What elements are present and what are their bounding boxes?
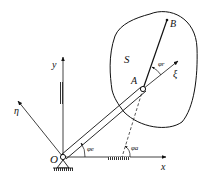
label-y: y — [51, 59, 57, 70]
joint-a — [140, 86, 145, 91]
label-x: x — [160, 161, 166, 172]
label-a: A — [130, 75, 138, 86]
arc-phi-r — [152, 67, 161, 75]
rod-oa-edge-1 — [61, 87, 141, 155]
label-phi-e: φe — [87, 145, 94, 153]
label-eta: η — [14, 105, 19, 116]
label-b: B — [170, 18, 176, 29]
label-phi-a: φa — [131, 144, 139, 152]
x-guide-hatch — [108, 157, 130, 160]
rod-ab — [143, 20, 167, 89]
label-s: S — [124, 53, 130, 65]
pin-o — [60, 154, 65, 159]
y-guide-hatch — [60, 82, 63, 104]
eta-axis — [18, 101, 63, 157]
point-b — [166, 19, 169, 22]
label-phi-r: φr — [158, 60, 165, 68]
kinematics-diagram: S B A O x y η ξ φe φa φr — [0, 0, 207, 183]
label-xi: ξ — [173, 68, 178, 80]
arc-phi-a — [125, 146, 130, 157]
support-triangle — [57, 160, 69, 168]
diagram-svg: S B A O x y η ξ φe φa φr — [0, 0, 207, 183]
label-o: O — [50, 153, 58, 165]
